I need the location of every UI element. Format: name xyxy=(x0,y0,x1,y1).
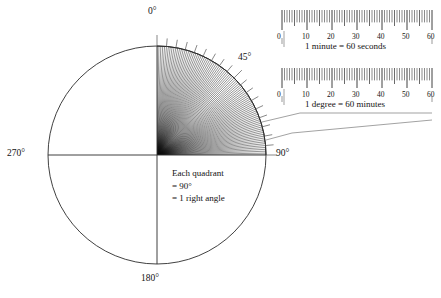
quadrant-tick xyxy=(176,40,177,48)
quadrant-tick xyxy=(259,115,267,118)
quadrant-tick xyxy=(185,42,187,50)
ruler-tick-label: 40 xyxy=(377,32,385,41)
quadrant-note: Each quadrant = 90° = 1 right angle xyxy=(172,167,225,205)
quadrant-tick xyxy=(262,125,270,127)
quadrant-note-line-2: = 90° xyxy=(172,180,225,193)
quadrant-tick xyxy=(241,80,247,85)
quadrant-tick xyxy=(266,145,274,146)
quadrant-tick xyxy=(251,97,258,101)
ruler-tick-label: 10 xyxy=(302,32,310,41)
circle-label-180: 180° xyxy=(141,273,159,285)
quadrant-tick xyxy=(264,135,272,136)
quadrant-tick xyxy=(234,70,242,78)
quadrant-tick xyxy=(256,106,263,109)
ruler-tick-label: 10 xyxy=(302,90,310,99)
ruler-tick-label: 60 xyxy=(427,90,435,99)
quadrant-tick xyxy=(212,54,216,61)
quadrant-tick xyxy=(203,49,206,56)
quadrant-tick xyxy=(220,59,225,66)
ruler-tick-label: 30 xyxy=(352,90,360,99)
ruler-tick-label: 30 xyxy=(352,32,360,41)
quadrant-note-line-3: = 1 right angle xyxy=(172,192,225,205)
ruler-tick-label: 0 xyxy=(277,90,281,99)
circle-label-270: 270° xyxy=(7,148,25,160)
quadrant-tick xyxy=(246,88,253,93)
quadrant-tick xyxy=(194,45,197,53)
ruler-tick-label: 20 xyxy=(327,90,335,99)
quadrant-tick xyxy=(167,38,168,46)
circle-label-45: 45° xyxy=(238,52,251,64)
circle-label-0: 0° xyxy=(148,6,157,18)
ruler-tick-label: 50 xyxy=(402,32,410,41)
quadrant-note-line-1: Each quadrant xyxy=(172,167,225,180)
ruler-tick-label: 20 xyxy=(327,32,335,41)
ruler-tick-label: 50 xyxy=(402,90,410,99)
minute-ruler-caption: 1 minute = 60 seconds xyxy=(305,41,386,52)
quadrant-tick xyxy=(227,65,232,71)
ruler-tick-label: 60 xyxy=(427,32,435,41)
degree-ruler-caption: 1 degree = 60 minutes xyxy=(305,99,385,110)
ruler-tick-label: 0 xyxy=(277,32,281,41)
ruler-tick-label: 40 xyxy=(377,90,385,99)
circle-label-90: 90° xyxy=(276,148,289,160)
